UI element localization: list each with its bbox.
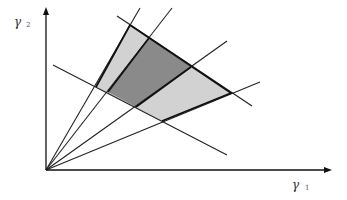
x-axis-subscript: 1 — [305, 184, 309, 192]
y-axis-arrow-icon — [43, 7, 49, 15]
diagram-canvas: γ 2 γ 1 — [0, 0, 347, 200]
y-axis-subscript: 2 — [26, 21, 30, 29]
x-axis-label: γ — [292, 178, 300, 192]
x-axis-arrow-icon — [324, 167, 332, 173]
y-axis-label: γ — [14, 15, 22, 29]
